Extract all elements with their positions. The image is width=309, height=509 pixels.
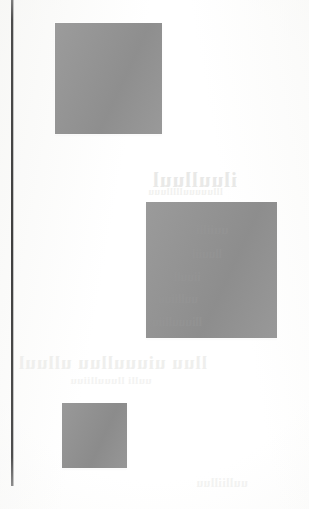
left-margin-rule	[11, 0, 13, 486]
middle-grey-block	[146, 202, 277, 338]
ghost-text-line: uulli lluuulliiuu	[70, 374, 152, 386]
ghost-text-line: uulliilluu	[196, 476, 248, 491]
scanned-page: iluulluul llluuuuullllluuu lluu uiuuullu…	[0, 0, 309, 509]
ghost-text-line: lluu uiuuulluu ulluul	[18, 352, 207, 374]
lower-grey-block	[62, 403, 127, 468]
ghost-text-line: llluuuuullllluuu	[148, 186, 223, 197]
upper-grey-block	[55, 23, 162, 134]
ghost-text-line: iluulluul	[152, 168, 237, 193]
